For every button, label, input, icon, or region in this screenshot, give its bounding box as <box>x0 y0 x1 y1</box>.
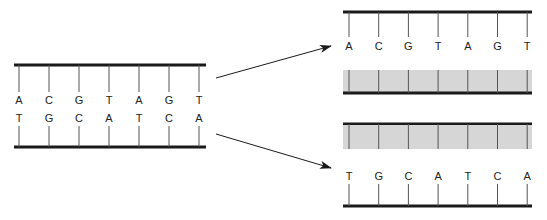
daughter-top-base: C <box>375 40 383 52</box>
daughter-top-base: A <box>464 40 472 52</box>
arrow-to-top <box>216 46 331 78</box>
daughter-bottom-base: A <box>434 170 442 182</box>
daughter-bottom-base: G <box>374 170 383 182</box>
daughter-top-base: G <box>404 40 413 52</box>
parent-bottom-base: A <box>105 112 113 124</box>
daughter-top-base: G <box>493 40 502 52</box>
parent-top-base: A <box>15 94 23 106</box>
parent-top-base: G <box>165 94 174 106</box>
new-strand-shaded <box>343 125 532 149</box>
daughter-bottom-base: A <box>524 170 532 182</box>
daughter-bottom-base: C <box>404 170 412 182</box>
dna-diagram: ACGTAGTTGCATCA ACGTAGT TGCATCA <box>0 0 547 220</box>
new-strand-shaded <box>343 70 532 93</box>
daughter-bottom-base: T <box>464 170 471 182</box>
daughter-bottom-base: C <box>494 170 502 182</box>
parent-top-base: C <box>45 94 53 106</box>
daughter-top-base: A <box>345 40 353 52</box>
parent-bottom-base: C <box>165 112 173 124</box>
parent-top-base: G <box>75 94 84 106</box>
parent-top-base: A <box>135 94 143 106</box>
daughter-top-base: T <box>435 40 442 52</box>
parent-top-base: T <box>196 94 203 106</box>
parent-bottom-base: A <box>195 112 203 124</box>
daughter-bottom-base: T <box>346 170 353 182</box>
daughter-top-base: T <box>524 40 531 52</box>
arrow-to-bottom <box>216 134 331 168</box>
daughter-top: ACGTAGT <box>343 12 532 93</box>
parent-bottom-base: T <box>16 112 23 124</box>
parent-dna: ACGTAGTTGCATCA <box>14 65 206 147</box>
parent-bottom-base: G <box>45 112 54 124</box>
daughter-bottom: TGCATCA <box>343 124 532 206</box>
parent-top-base: T <box>106 94 113 106</box>
parent-bottom-base: T <box>136 112 143 124</box>
parent-bottom-base: C <box>75 112 83 124</box>
